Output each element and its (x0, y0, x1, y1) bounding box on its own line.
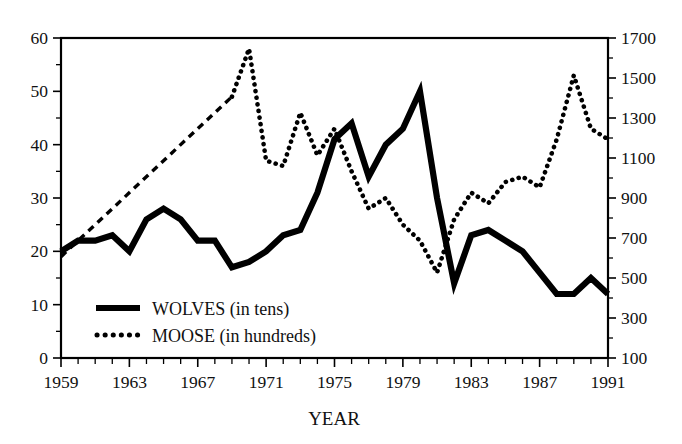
left-tick-label: 50 (31, 81, 49, 101)
left-tick-label: 10 (31, 295, 49, 315)
right-tick-label: 900 (621, 188, 648, 208)
chart-legend: WOLVES (in tens) MOOSE (in hundreds) (96, 299, 316, 347)
x-tick-label: 1971 (249, 372, 284, 392)
x-axis-ticks (61, 358, 608, 367)
x-tick-label: 1979 (385, 372, 420, 392)
left-tick-label: 30 (31, 188, 49, 208)
x-axis-tick-labels: 195919631967197119751979198319871991 (44, 372, 626, 392)
left-axis-ticks (53, 38, 61, 358)
right-tick-label: 300 (621, 308, 648, 328)
right-tick-label: 1100 (621, 148, 656, 168)
x-tick-label: 1975 (317, 372, 352, 392)
right-axis-tick-labels: 1003005007009001100130015001700 (621, 28, 656, 368)
left-tick-label: 0 (39, 348, 48, 368)
right-tick-label: 1300 (621, 108, 656, 128)
plot-frame (61, 38, 608, 358)
right-tick-label: 100 (621, 348, 648, 368)
wolves-series-line (61, 91, 608, 294)
left-tick-label: 40 (31, 135, 49, 155)
right-tick-label: 500 (621, 268, 648, 288)
right-axis-ticks (608, 38, 616, 358)
x-axis-title: YEAR (308, 408, 360, 429)
x-tick-label: 1983 (454, 372, 489, 392)
x-tick-label: 1959 (44, 372, 79, 392)
chart-canvas: 0102030405060 10030050070090011001300150… (0, 0, 682, 444)
left-tick-label: 60 (31, 28, 49, 48)
legend-label-moose: MOOSE (in hundreds) (152, 326, 316, 347)
left-tick-label: 20 (31, 241, 49, 261)
legend-label-wolves: WOLVES (in tens) (152, 299, 289, 320)
x-tick-label: 1991 (591, 372, 626, 392)
x-tick-label: 1963 (112, 372, 147, 392)
left-axis-tick-labels: 0102030405060 (31, 28, 49, 368)
wolf-moose-population-chart: 0102030405060 10030050070090011001300150… (0, 0, 682, 444)
moose-series-interpolated-segment (61, 97, 232, 257)
right-tick-label: 1500 (621, 68, 656, 88)
right-tick-label: 1700 (621, 28, 656, 48)
x-tick-label: 1967 (180, 372, 215, 392)
right-tick-label: 700 (621, 228, 648, 248)
moose-series-line (232, 49, 608, 273)
x-tick-label: 1987 (522, 372, 557, 392)
